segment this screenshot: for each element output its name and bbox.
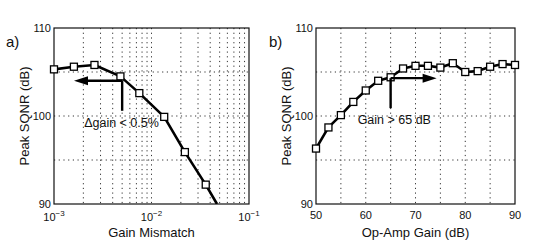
- y-tick-label: 90: [39, 198, 51, 210]
- square-marker: [70, 63, 77, 70]
- x-tick-label: 80: [459, 209, 471, 221]
- square-marker: [325, 124, 332, 131]
- square-marker: [437, 64, 444, 71]
- square-marker: [474, 68, 481, 75]
- x-tick-label: 50: [310, 209, 322, 221]
- square-marker: [499, 61, 506, 68]
- square-marker: [424, 62, 431, 69]
- x-axis-label: Op-Amp Gain (dB): [362, 225, 470, 240]
- square-marker: [362, 87, 369, 94]
- square-marker: [412, 62, 419, 69]
- x-tick-label: 60: [360, 209, 372, 221]
- square-marker: [161, 113, 168, 120]
- panel-a-gain-mismatch: 9010011010−310−210−1Gain MismatchPeak SQ…: [6, 22, 260, 240]
- annotation: Gain > 65 dB: [358, 74, 437, 128]
- x-tick-label: 90: [509, 209, 521, 221]
- square-marker: [400, 65, 407, 72]
- x-axis-label: Gain Mismatch: [108, 225, 195, 240]
- panel-label: a): [6, 33, 19, 50]
- y-tick-label: 100: [33, 110, 51, 122]
- annotation-text: Δgain < 0.5%: [84, 116, 159, 130]
- square-marker: [313, 145, 320, 152]
- y-axis-label: Peak SQNR (dB): [17, 67, 32, 166]
- y-tick-label: 110: [295, 22, 313, 34]
- annotation: Δgain < 0.5%: [74, 76, 159, 130]
- data-line: [54, 65, 217, 204]
- square-marker: [449, 60, 456, 67]
- square-marker: [350, 98, 357, 105]
- arrow-right-icon: [423, 74, 437, 83]
- x-tick-label: 70: [409, 209, 421, 221]
- square-marker: [337, 112, 344, 119]
- annotation-text: Gain > 65 dB: [358, 113, 431, 127]
- square-marker: [202, 181, 209, 188]
- y-tick-label: 100: [295, 110, 313, 122]
- figure: 9010011010−310−210−1Gain MismatchPeak SQ…: [0, 0, 535, 247]
- square-marker: [462, 69, 469, 76]
- x-tick-label: 10−3: [43, 209, 65, 223]
- square-marker: [117, 73, 124, 80]
- x-tick-label: 10−2: [141, 209, 163, 223]
- y-axis-label: Peak SQNR (dB): [279, 67, 294, 166]
- square-marker: [51, 66, 58, 73]
- x-tick-label: 10−1: [238, 209, 260, 223]
- square-marker: [91, 61, 98, 68]
- square-marker: [375, 77, 382, 84]
- arrow-left-icon: [74, 76, 88, 85]
- square-marker: [512, 61, 519, 68]
- square-marker: [136, 90, 143, 97]
- y-tick-label: 110: [33, 22, 51, 34]
- square-marker: [181, 149, 188, 156]
- panel-b-opamp-gain: 901001105060708090Op-Amp Gain (dB)Peak S…: [269, 22, 521, 240]
- square-marker: [487, 63, 494, 70]
- panel-label: b): [269, 33, 282, 50]
